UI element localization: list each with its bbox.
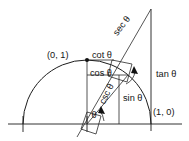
label-theta-origin: θ	[91, 110, 96, 120]
label-point-right: (1, 0)	[153, 107, 174, 117]
trig-unit-circle-figure: (0, 1) cot θ cos θ tan θ sin θ sec θ csc…	[0, 0, 189, 141]
trig-diagram-svg: (0, 1) cot θ cos θ tan θ sin θ sec θ csc…	[0, 0, 189, 141]
label-sec: sec θ	[111, 14, 132, 37]
label-cot: cot θ	[92, 50, 112, 60]
label-point-top: (0, 1)	[47, 50, 68, 60]
theta-arrow-tangent	[131, 66, 138, 74]
top-point-dot	[85, 58, 89, 62]
label-tan: tan θ	[156, 69, 176, 79]
label-cos: cos θ	[90, 68, 112, 78]
label-csc: csc θ	[97, 82, 115, 106]
label-sin: sin θ	[123, 93, 142, 103]
